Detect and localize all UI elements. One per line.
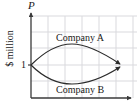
y-axis-tick-label-1: 1 [21, 60, 26, 70]
curve-company-a [31, 44, 120, 65]
series-label-company-b: Company B [56, 85, 104, 95]
grid-lines-horizontal [31, 16, 137, 81]
y-axis-title: $ million [4, 21, 15, 77]
y-axis-variable-label: P [28, 0, 35, 11]
series-label-company-a: Company A [56, 33, 104, 43]
profit-curves-figure: P $ million 1 Company A Company B [0, 0, 139, 109]
